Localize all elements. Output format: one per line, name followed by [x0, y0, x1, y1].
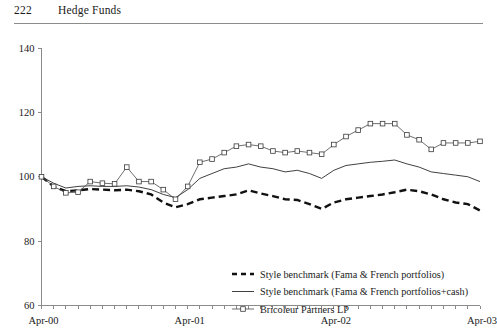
data-point-marker: [64, 191, 69, 196]
page-number: 222: [14, 4, 32, 16]
data-point-marker: [124, 165, 129, 170]
data-point-marker: [441, 141, 446, 146]
y-tick-label: 80: [24, 236, 35, 247]
legend-label: Bricoleur Partners LP: [260, 304, 349, 315]
chart-legend: Style benchmark (Fama & French portfolio…: [232, 269, 468, 315]
data-point-marker: [149, 179, 154, 184]
data-point-marker: [88, 179, 93, 184]
data-point-marker: [210, 157, 215, 162]
data-point-marker: [112, 182, 117, 187]
line-chart: 6080100120140 Apr-00Apr-01Apr-02Apr-03 S…: [0, 26, 497, 334]
data-point-marker: [137, 179, 142, 184]
y-tick-label: 120: [19, 107, 35, 118]
data-point-marker: [258, 144, 263, 149]
data-point-marker: [198, 160, 203, 165]
data-point-marker: [417, 137, 422, 142]
data-point-marker: [271, 149, 276, 154]
chart-axes: [42, 48, 481, 306]
data-point-marker: [295, 149, 300, 154]
legend-swatch-marker: [241, 307, 246, 312]
data-point-marker: [185, 184, 190, 189]
data-point-marker: [51, 184, 56, 189]
x-tick-label: Apr-03: [467, 315, 497, 326]
legend-label: Style benchmark (Fama & French portfolio…: [260, 286, 468, 298]
data-point-marker: [283, 150, 288, 155]
y-axis-labels: 6080100120140: [19, 43, 35, 312]
legend-label: Style benchmark (Fama & French portfolio…: [260, 269, 444, 281]
data-point-marker: [76, 190, 81, 195]
data-point-marker: [478, 139, 483, 144]
header-rule: [14, 23, 483, 24]
data-point-marker: [307, 150, 312, 155]
data-point-marker: [453, 141, 458, 146]
data-point-marker: [234, 144, 239, 149]
data-point-marker: [161, 187, 166, 192]
running-head: 222 Hedge Funds: [0, 0, 497, 26]
y-tick-label: 60: [24, 300, 35, 311]
data-point-marker: [39, 174, 44, 179]
data-point-marker: [466, 141, 471, 146]
series-line-style-benchmark-cash: [42, 160, 481, 198]
running-title: Hedge Funds: [58, 4, 121, 16]
y-tick-label: 100: [19, 171, 35, 182]
x-tick-label: Apr-02: [321, 315, 351, 326]
chart-plot-area: [39, 121, 482, 210]
y-tick-label: 140: [19, 43, 35, 54]
x-tick-label: Apr-01: [175, 315, 205, 326]
data-point-marker: [173, 197, 178, 202]
data-point-marker: [319, 152, 324, 157]
x-tick-label: Apr-00: [28, 315, 58, 326]
data-point-marker: [380, 121, 385, 126]
data-point-marker: [222, 150, 227, 155]
data-point-marker: [368, 121, 373, 126]
data-point-marker: [405, 133, 410, 138]
data-point-marker: [332, 142, 337, 147]
data-point-marker: [246, 142, 251, 147]
data-point-marker: [392, 121, 397, 126]
data-point-marker: [429, 147, 434, 152]
x-axis-labels: Apr-00Apr-01Apr-02Apr-03: [28, 315, 497, 326]
series-line-bricoleur: [42, 124, 481, 200]
series-line-style-benchmark: [42, 177, 481, 211]
data-point-marker: [356, 128, 361, 133]
figure-chart: 6080100120140 Apr-00Apr-01Apr-02Apr-03 S…: [0, 26, 497, 334]
data-point-marker: [344, 134, 349, 139]
book-page: 222 Hedge Funds 6080100120140 Apr-00Apr-…: [0, 0, 497, 334]
data-point-marker: [100, 181, 105, 186]
